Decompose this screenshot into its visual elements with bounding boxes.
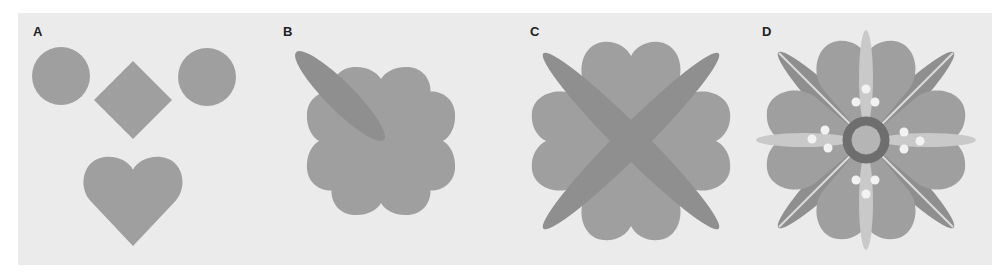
circle-shape-left xyxy=(32,47,90,105)
center-disc xyxy=(852,126,880,154)
axis-petal-top xyxy=(859,30,873,126)
panel-label-d: D xyxy=(762,24,771,39)
figure-canvas: A B C D xyxy=(0,0,1006,275)
panel-d: D xyxy=(756,24,976,250)
panel-label-c: C xyxy=(530,24,540,39)
panel-label-b: B xyxy=(283,24,292,39)
axis-petal-bottom xyxy=(859,154,873,250)
axis-petal-right xyxy=(880,133,976,147)
circle-shape-right xyxy=(178,48,236,106)
axis-petal-left xyxy=(756,133,852,147)
panel-label-a: A xyxy=(33,24,43,39)
